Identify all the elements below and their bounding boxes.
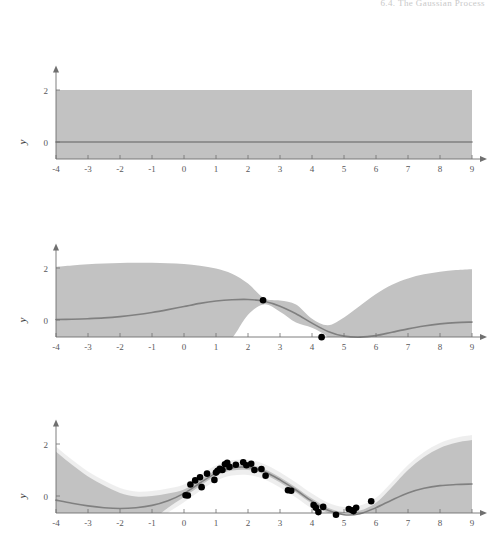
- data-point: [262, 472, 269, 479]
- data-point: [318, 334, 325, 341]
- x-tick-label: 1: [214, 164, 219, 174]
- x-tick-label: -3: [84, 164, 92, 174]
- plot-panel-many-points: -4-3-2-1012345678920-2xy: [0, 362, 493, 538]
- x-tick-label: 4: [310, 342, 315, 352]
- x-tick-label: 9: [470, 518, 475, 528]
- plot-panel-prior: -4-3-2-1012345678920-2xy: [0, 8, 493, 184]
- x-tick-label: 6: [374, 342, 379, 352]
- x-axis-title: x: [261, 179, 267, 184]
- x-tick-label: 5: [342, 164, 347, 174]
- x-tick-label: 5: [342, 518, 347, 528]
- x-tick-label: -1: [148, 164, 156, 174]
- data-point: [248, 460, 255, 467]
- data-point: [251, 467, 258, 474]
- x-tick-label: 5: [342, 342, 347, 352]
- data-point: [211, 477, 218, 484]
- data-point: [204, 470, 211, 477]
- x-tick-label: -2: [116, 518, 124, 528]
- running-head: 6.4. The Gaussian Process: [380, 0, 485, 8]
- data-point: [333, 511, 340, 518]
- x-tick-label: 9: [470, 342, 475, 352]
- y-tick-label: 2: [44, 440, 49, 450]
- data-point: [219, 467, 226, 474]
- x-tick-label: 0: [182, 164, 187, 174]
- x-tick-label: 2: [246, 342, 251, 352]
- y-axis-title: y: [16, 139, 28, 145]
- x-tick-label: -4: [52, 164, 60, 174]
- x-tick-label: 0: [182, 342, 187, 352]
- x-tick-label: 8: [438, 518, 443, 528]
- x-tick-label: 3: [278, 164, 283, 174]
- x-tick-label: 6: [374, 518, 379, 528]
- data-point: [258, 466, 265, 473]
- figure-page: 6.4. The Gaussian Process -4-3-2-1012345…: [0, 0, 493, 547]
- x-tick-label: 9: [470, 164, 475, 174]
- x-tick-label: 4: [310, 518, 315, 528]
- y-tick-label: 2: [44, 86, 49, 96]
- x-tick-label: 2: [246, 518, 251, 528]
- x-tick-label: 8: [438, 342, 443, 352]
- x-tick-label: 7: [406, 518, 411, 528]
- y-axis-title: y: [16, 493, 28, 499]
- plot-panel-two-points: -4-3-2-1012345678920-2xy: [0, 186, 493, 362]
- x-tick-label: 1: [214, 518, 219, 528]
- data-point: [320, 504, 327, 511]
- x-axis-title: x: [261, 533, 267, 538]
- data-point: [288, 488, 295, 495]
- x-tick-label: 0: [182, 518, 187, 528]
- data-point: [185, 492, 192, 499]
- data-point: [197, 474, 204, 481]
- x-tick-label: 3: [278, 342, 283, 352]
- data-point: [233, 462, 240, 469]
- x-tick-label: -2: [116, 164, 124, 174]
- data-point: [226, 464, 233, 471]
- x-tick-label: -4: [52, 518, 60, 528]
- data-point: [315, 509, 322, 516]
- y-tick-label: 0: [44, 316, 49, 326]
- y-axis-title: y: [16, 317, 28, 323]
- x-tick-label: 8: [438, 164, 443, 174]
- x-tick-label: 2: [246, 164, 251, 174]
- data-point: [198, 484, 205, 491]
- x-tick-label: -3: [84, 518, 92, 528]
- data-point: [353, 504, 360, 511]
- x-tick-label: 1: [214, 342, 219, 352]
- x-tick-label: 7: [406, 342, 411, 352]
- data-point: [260, 297, 267, 304]
- x-tick-label: 4: [310, 164, 315, 174]
- y-tick-label: 0: [44, 138, 49, 148]
- x-tick-label: 6: [374, 164, 379, 174]
- x-tick-label: -1: [148, 342, 156, 352]
- x-tick-label: -3: [84, 342, 92, 352]
- x-tick-label: -1: [148, 518, 156, 528]
- x-tick-label: 3: [278, 518, 283, 528]
- x-tick-label: 7: [406, 164, 411, 174]
- data-point: [368, 498, 375, 505]
- y-tick-label: 0: [44, 492, 49, 502]
- x-tick-label: -2: [116, 342, 124, 352]
- y-tick-label: 2: [44, 264, 49, 274]
- x-tick-label: -4: [52, 342, 60, 352]
